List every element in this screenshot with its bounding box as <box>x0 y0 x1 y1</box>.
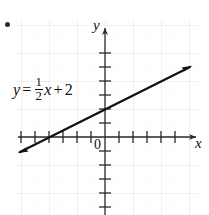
fraction-denominator: 2 <box>35 90 44 103</box>
equation-equals: = <box>20 81 33 98</box>
equation-fraction: 12 <box>35 76 44 103</box>
fraction-numerator: 1 <box>35 76 44 89</box>
equation-plus: + <box>51 81 64 98</box>
equation-label: y=12x+2 <box>13 76 73 103</box>
grid-lines <box>16 20 198 215</box>
x-axis-label: x <box>195 136 202 151</box>
y-axis-label: y <box>93 18 100 33</box>
graph-canvas <box>0 0 209 215</box>
coordinate-plane-figure: y=12x+2 y x 0 <box>0 0 209 215</box>
equation-constant: 2 <box>65 81 73 98</box>
origin-label: 0 <box>94 138 101 152</box>
